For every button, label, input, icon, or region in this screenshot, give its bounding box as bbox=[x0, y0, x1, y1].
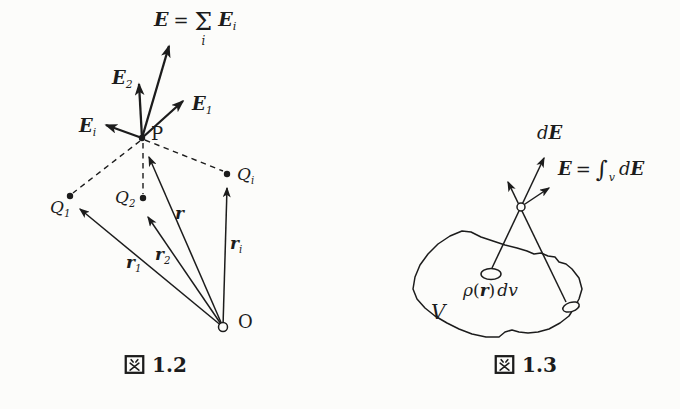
label-v: V bbox=[431, 302, 445, 322]
charge-q2-dot bbox=[140, 195, 146, 201]
equals-sign: = bbox=[173, 10, 188, 30]
volume-element-2-ellipse bbox=[561, 300, 580, 314]
caption-fig-1-2: 1.2 bbox=[124, 354, 187, 375]
label-r2: r2 bbox=[155, 246, 170, 266]
label-ei: Ei bbox=[79, 117, 96, 139]
label-ri: ri bbox=[230, 235, 242, 255]
diagram-linework bbox=[0, 0, 680, 409]
e2-arrow bbox=[139, 84, 142, 138]
label-rho-r-dv: ρ(r)dv bbox=[463, 282, 518, 299]
label-qi: Qi bbox=[237, 166, 254, 186]
label-de: dE bbox=[537, 124, 562, 142]
label-e1: E1 bbox=[192, 95, 213, 117]
e-total-rhs: Ei bbox=[218, 10, 236, 32]
e-total-lhs: E bbox=[154, 10, 168, 29]
observation-point-circle bbox=[517, 203, 525, 211]
caption-number: 1.2 bbox=[152, 355, 187, 375]
zu-figure-kanji-icon bbox=[494, 354, 515, 375]
r-arrow bbox=[149, 157, 223, 327]
de-arrow bbox=[492, 158, 544, 268]
r1-arrow bbox=[80, 209, 223, 327]
label-e2: E2 bbox=[112, 69, 133, 91]
label-p: P bbox=[151, 125, 163, 143]
equals-sign: = bbox=[576, 161, 591, 179]
ei-arrow bbox=[106, 125, 142, 138]
origin-circle bbox=[219, 323, 228, 332]
dashed-line-p-qi bbox=[145, 140, 223, 171]
scanned-figure-page: E = Σ i Ei E2 E1 Ei P O Q1 Q2 Qi r r1 r2… bbox=[0, 0, 680, 409]
label-q1: Q1 bbox=[50, 199, 70, 219]
label-e-integral: E = ∫ v dE bbox=[558, 160, 644, 183]
point-p-dot bbox=[139, 135, 145, 141]
summation-symbol: Σ i bbox=[195, 10, 213, 47]
label-o: O bbox=[238, 313, 253, 331]
volume-element-ellipse bbox=[481, 269, 501, 280]
de-integrand: dE bbox=[619, 160, 644, 178]
zu-figure-kanji-icon bbox=[124, 354, 145, 375]
label-r: r bbox=[175, 205, 184, 225]
integral-symbol: ∫ bbox=[596, 160, 608, 178]
dashed-line-p-q1 bbox=[73, 141, 140, 193]
ri-arrow bbox=[223, 188, 227, 327]
label-q2: Q2 bbox=[115, 189, 135, 209]
caption-fig-1-3: 1.3 bbox=[494, 354, 557, 375]
caption-number: 1.3 bbox=[522, 355, 557, 375]
label-r1: r1 bbox=[126, 254, 141, 274]
r2-arrow bbox=[148, 217, 223, 327]
label-e-total-formula: E = Σ i Ei bbox=[154, 10, 236, 47]
charge-qi-dot bbox=[224, 171, 230, 177]
